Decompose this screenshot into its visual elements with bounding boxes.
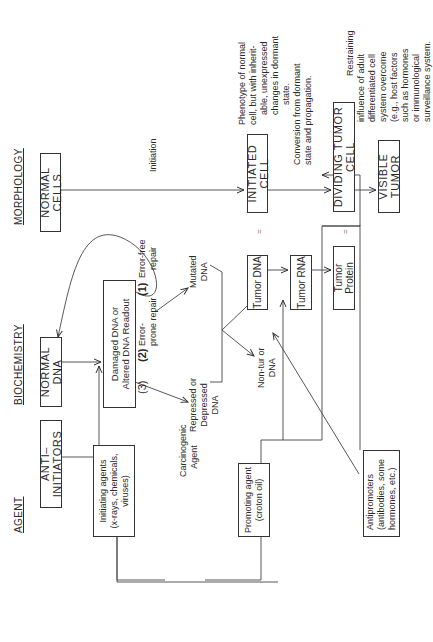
header-agent: AGENT	[13, 497, 24, 533]
error-free-repair-label: Error-free repair	[137, 239, 159, 278]
repressed-line-2: Depressed	[199, 378, 210, 432]
anti-initiators-box: ANTI–INITIATORS	[40, 420, 62, 508]
tumor-rna-box: Tumor RNA	[290, 255, 312, 310]
normal-cells-box: NORMAL CELLS	[40, 153, 61, 232]
initiated-note-line-3: able, unexpressed	[259, 5, 270, 125]
restraining-line-1: Restraining	[345, 2, 356, 122]
restraining-line-8: surveillance system.	[422, 2, 433, 122]
tumor-dna-box: Tumor DNA	[247, 255, 268, 310]
header-morphology: MORPHOLOGY	[13, 148, 24, 225]
initiating-agents-box: Initiating agents (x-rays, chemicals, vi…	[93, 445, 135, 537]
carcinogenic-line-1: Carcinogenic	[178, 437, 189, 477]
equals-sign-2: =	[340, 229, 351, 234]
antipromoters-box: Antipromoters (antibodies, some hormones…	[363, 450, 400, 537]
promoting-agent-line-1: Promoting agent	[243, 467, 254, 533]
restraining-line-6: such as hormones	[400, 2, 411, 122]
initiated-note-line-2: cell, but with inherit-	[248, 5, 259, 125]
antipromoters-line-2: (antibodies, some	[376, 459, 387, 530]
visible-tumor-box: VISIBLE TUMOR	[378, 140, 400, 213]
error-prone-line-2: prone repair	[148, 297, 159, 346]
mutated-line-1: Mutated	[188, 255, 199, 288]
antipromoters-line-1: Antipromoters	[365, 474, 376, 530]
repair-3-number: (3)	[137, 381, 148, 394]
repressed-dna-label: Repressed or Depressed DNA	[188, 378, 221, 432]
conversion-note: Conversion from dormant state and propag…	[292, 55, 314, 165]
mutated-line-2: DNA	[199, 255, 210, 288]
initiation-label: Initiation	[148, 138, 159, 172]
error-prone-repair-label: Error- prone repair	[137, 297, 159, 346]
repair-1-number: (1)	[137, 283, 148, 296]
restraining-line-5: (e.g., host factors	[389, 2, 400, 122]
restraining-line-4: system overcome	[378, 2, 389, 122]
error-prone-line-1: Error-	[137, 297, 148, 346]
repair-2-number: (2)	[137, 349, 148, 362]
damaged-dna-box: Damaged DNA or Altered DNA Readout	[103, 280, 136, 408]
restraining-line-7: or immunological	[411, 2, 422, 122]
initiating-agents-line-3: viruses)	[120, 475, 131, 507]
damaged-dna-line-2: Altered DNA Readout	[120, 299, 131, 390]
error-free-line-1: Error-free	[137, 239, 148, 278]
antipromoters-line-3: hormones, etc.)	[387, 467, 398, 530]
initiated-note-line-1: Phenotype of normal	[237, 5, 248, 125]
initiated-note-line-5: state.	[281, 5, 292, 125]
non-tumor-line-1: Non-tur or	[256, 347, 267, 388]
mutated-dna-label: Mutated DNA	[188, 255, 210, 288]
tumor-protein-box: Tumor Protein	[333, 246, 355, 310]
initiated-note-line-4: changes in dormant	[270, 5, 281, 125]
conversion-line-1: Conversion from dormant	[292, 55, 303, 165]
non-tumor-dna-label: Non-tur or DNA	[256, 347, 278, 388]
header-biochemistry: BIOCHEMISTRY	[13, 324, 24, 405]
damaged-dna-line-1: Damaged DNA or	[109, 307, 120, 381]
equals-sign-1: =	[254, 229, 265, 234]
promoting-agent-box: Promoting agent (croton oil)	[238, 463, 270, 537]
restraining-line-2: influence of adult	[356, 2, 367, 122]
initiating-agents-line-2: (x-rays, chemicals,	[109, 454, 120, 529]
promoting-agent-line-2: (croton oil)	[254, 479, 265, 522]
initiated-cell-box: INITIATED CELL	[247, 134, 268, 213]
initiating-agents-line-1: Initiating agents	[98, 459, 109, 522]
non-tumor-line-2: DNA	[267, 347, 278, 388]
carcinogenic-line-2: Agent	[189, 437, 200, 477]
conversion-line-2: state and propagation.	[303, 55, 314, 165]
initiated-cell-note: Phenotype of normal cell, but with inher…	[237, 5, 292, 125]
repressed-line-1: Repressed or	[188, 378, 199, 432]
restraining-line-3: differentiated cell	[367, 2, 378, 122]
normal-dna-box: NORMAL DNA	[40, 337, 62, 407]
error-free-line-2: repair	[148, 239, 159, 278]
carcinogenic-agent-label: Carcinogenic Agent	[178, 437, 200, 477]
repressed-line-3: DNA	[210, 378, 221, 432]
restraining-note: Restraining influence of adult different…	[345, 2, 433, 122]
